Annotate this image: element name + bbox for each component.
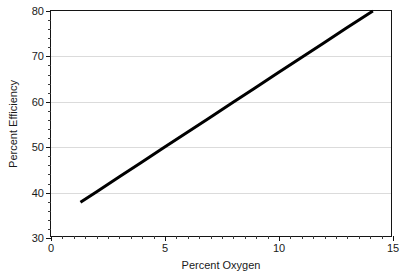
x-tick-minor (370, 236, 371, 239)
x-tick-major (165, 236, 166, 241)
x-tick-minor (199, 236, 200, 239)
x-tick-minor (313, 236, 314, 239)
x-tick-minor (85, 236, 86, 239)
x-tick-minor (154, 236, 155, 239)
x-tick-minor (108, 236, 109, 239)
x-tick-minor (62, 236, 63, 239)
x-tick-label: 10 (273, 243, 285, 254)
y-tick-label: 40 (32, 187, 44, 198)
y-tick-label: 30 (32, 233, 44, 244)
x-tick-major (279, 236, 280, 241)
x-tick-minor (302, 236, 303, 239)
x-tick-label: 0 (48, 243, 54, 254)
x-tick-minor (119, 236, 120, 239)
data-series-line (80, 11, 372, 202)
y-tick-label: 70 (32, 51, 44, 62)
x-tick-major (51, 236, 52, 241)
x-tick-minor (336, 236, 337, 239)
y-tick-label: 60 (32, 96, 44, 107)
x-axis-title: Percent Oxygen (50, 259, 392, 271)
plot-area: 304050607080 051015 (50, 10, 392, 237)
y-axis-title: Percent Efficiency (6, 0, 20, 247)
x-tick-minor (245, 236, 246, 239)
x-tick-minor (131, 236, 132, 239)
x-tick-minor (268, 236, 269, 239)
x-axis-title-label: Percent Oxygen (182, 259, 261, 271)
x-tick-minor (211, 236, 212, 239)
x-tick-label: 5 (162, 243, 168, 254)
x-tick-minor (359, 236, 360, 239)
y-tick-label: 80 (32, 6, 44, 17)
x-tick-major (393, 236, 394, 241)
x-tick-minor (382, 236, 383, 239)
x-tick-minor (188, 236, 189, 239)
x-tick-minor (325, 236, 326, 239)
x-tick-minor (222, 236, 223, 239)
x-tick-minor (74, 236, 75, 239)
x-tick-minor (142, 236, 143, 239)
x-tick-minor (233, 236, 234, 239)
x-tick-minor (256, 236, 257, 239)
x-tick-minor (290, 236, 291, 239)
chart-figure: Percent Efficiency 304050607080 051015 P… (0, 0, 409, 280)
x-tick-minor (176, 236, 177, 239)
x-tick-minor (347, 236, 348, 239)
x-tick-label: 15 (387, 243, 399, 254)
data-series-layer (51, 11, 391, 236)
y-axis-title-label: Percent Efficiency (7, 80, 19, 168)
y-tick-label: 50 (32, 142, 44, 153)
x-tick-minor (97, 236, 98, 239)
